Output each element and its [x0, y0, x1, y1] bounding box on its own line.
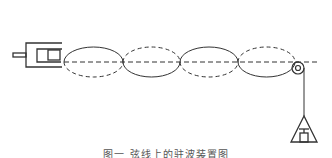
weight-icon: [291, 116, 317, 142]
standing-wave-diagram: [0, 0, 332, 158]
figure-caption: 图一 弦线上的驻波装置图: [0, 148, 332, 158]
vibrator-icon: [13, 43, 62, 67]
pulley-icon: [292, 62, 304, 74]
